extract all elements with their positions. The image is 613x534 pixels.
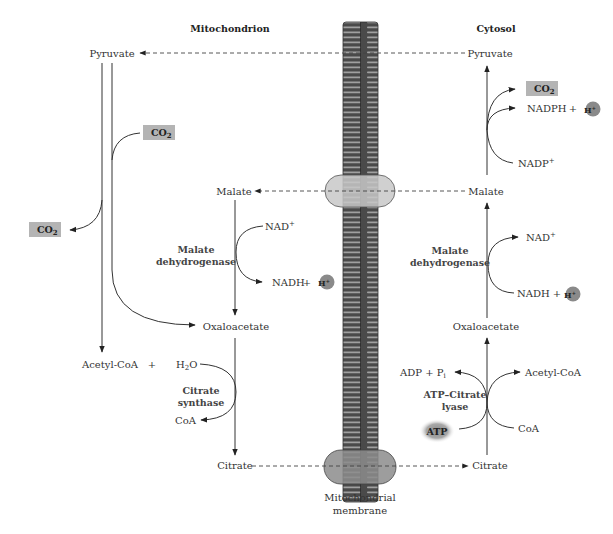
mito-mdh-enzyme-line1: Malate xyxy=(178,244,215,255)
atp-citrate-lyase-line1: ATP–Citrate xyxy=(423,389,487,400)
mito-nad-reduction-arrow xyxy=(236,226,263,282)
mito-plus2: + xyxy=(148,359,156,370)
cytosol-header: Cytosol xyxy=(476,23,515,34)
cyto-nadph: NADPH xyxy=(527,103,567,114)
co2-in-curve xyxy=(112,133,140,160)
co2-out-box: CO2 xyxy=(29,222,61,237)
co2-out-arrow xyxy=(70,200,102,230)
cyto-h-plus: H+ xyxy=(584,102,600,117)
cyto-mdh-enzyme-line1: Malate xyxy=(432,245,469,256)
cyto-acetyl-coa: Acetyl-CoA xyxy=(524,367,582,378)
svg-text:ATP: ATP xyxy=(425,426,447,437)
cyto-mdh-enzyme-line2: dehydrogenase xyxy=(410,257,490,268)
cyto-citrate: Citrate xyxy=(472,460,508,471)
mitochondrial-membrane xyxy=(343,22,378,502)
mito-malate: Malate xyxy=(216,186,251,197)
citrate-shuttle-diagram: Mitochondrion Cytosol Mitochondrial memb… xyxy=(0,0,613,534)
mito-nad-plus: NAD+ xyxy=(265,220,295,232)
cyto-co2-box: CO2 xyxy=(526,81,558,96)
cyto-oxaloacetate: Oxaloacetate xyxy=(453,321,519,332)
cyto-plus: + xyxy=(569,103,577,114)
nadph-release-arrow xyxy=(487,108,515,130)
mitochondrion-header: Mitochondrion xyxy=(190,23,269,34)
coa-to-acetylcoa-arrow xyxy=(487,372,520,428)
co2-in-box: CO2 xyxy=(143,125,175,140)
mito-h2o: H2O xyxy=(176,359,197,372)
cyto-pyruvate: Pyruvate xyxy=(467,48,512,59)
cyto-plus2: + xyxy=(553,288,561,299)
mito-acetyl-coa: Acetyl-CoA xyxy=(81,359,139,370)
cyto-nadh: NADH xyxy=(517,288,550,299)
cyto-h-plus2: H+ xyxy=(564,287,580,302)
mito-nadh: NADH xyxy=(272,277,305,288)
mito-plus: + xyxy=(303,277,311,288)
cyto-nadp-plus: NADP+ xyxy=(518,157,555,169)
mito-oxaloacetate: Oxaloacetate xyxy=(203,321,269,332)
cyto-nad-plus: NAD+ xyxy=(526,231,556,243)
cyto-nadh-oxidation-arrow xyxy=(488,237,518,293)
citrate-synthase-line1: Citrate xyxy=(182,385,219,396)
membrane-label-line2: membrane xyxy=(333,505,387,516)
pyruvate-to-oaa-arrow xyxy=(112,270,195,325)
cyto-coa: CoA xyxy=(518,423,540,434)
citrate-synthase-line2: synthase xyxy=(178,397,225,408)
mito-coa: CoA xyxy=(175,415,197,426)
cyto-malate: Malate xyxy=(468,186,503,197)
cyto-atp: ATP xyxy=(419,419,455,443)
mito-mdh-enzyme-line2: dehydrogenase xyxy=(156,256,236,267)
cyto-adp-pi: ADP + Pi xyxy=(399,367,446,380)
mito-h-plus: H+ xyxy=(318,275,334,290)
citrate-transporter xyxy=(324,450,396,484)
nadp-uptake-curve xyxy=(487,130,513,163)
membrane-label-line1: Mitochondrial xyxy=(324,492,396,503)
co2-release-arrow xyxy=(487,89,515,130)
atp-citrate-lyase-line2: lyase xyxy=(442,401,469,412)
mito-pyruvate: Pyruvate xyxy=(89,48,134,59)
mito-citrate: Citrate xyxy=(217,460,253,471)
